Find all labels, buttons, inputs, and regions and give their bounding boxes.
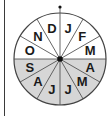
top-marker-dot: [58, 5, 61, 8]
month-wheel-diagram: JFMAMJJASOND: [0, 0, 112, 125]
month-label: J: [64, 21, 71, 36]
month-label: S: [25, 60, 34, 75]
month-label: O: [25, 43, 35, 58]
month-label: M: [77, 74, 88, 89]
month-label: A: [33, 74, 43, 89]
month-label: N: [33, 29, 42, 44]
month-label: M: [85, 43, 96, 58]
month-label: A: [86, 60, 96, 75]
month-label: J: [64, 82, 71, 97]
month-label: J: [48, 82, 55, 97]
month-label: D: [47, 21, 56, 36]
center-dot: [57, 56, 63, 62]
month-label: F: [78, 29, 86, 44]
